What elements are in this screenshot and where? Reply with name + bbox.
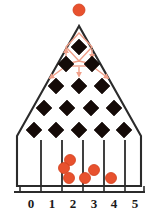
peg-r3-c1 <box>48 78 64 94</box>
x-axis-label-1: 1 <box>49 196 56 211</box>
peg-r4-c3 <box>83 100 99 116</box>
collected-ball-bin4-1 <box>106 173 117 184</box>
peg-r4-c1 <box>36 100 52 116</box>
input-ball <box>73 4 85 16</box>
peg-r5-c3 <box>71 122 87 138</box>
peg-r5-c2 <box>48 122 64 138</box>
peg-r1-c1 <box>71 39 87 55</box>
galton-board-figure: 012345 <box>0 0 159 219</box>
peg-r5-c1 <box>26 122 42 138</box>
galton-board-canvas: 012345 <box>0 0 159 219</box>
x-axis-label-5: 5 <box>132 196 139 211</box>
peg-r4-c2 <box>59 100 75 116</box>
x-axis-label-3: 3 <box>91 196 98 211</box>
collected-ball-bin2-3 <box>64 173 75 184</box>
peg-r3-c2 <box>71 78 87 94</box>
peg-r5-c5 <box>116 122 132 138</box>
collected-ball-bin2-2 <box>59 163 70 174</box>
x-axis-label-2: 2 <box>70 196 77 211</box>
collected-ball-bin3-1 <box>89 165 100 176</box>
peg-r5-c4 <box>94 122 110 138</box>
x-axis-label-0: 0 <box>28 196 35 211</box>
collected-ball-bin3-2 <box>80 173 91 184</box>
peg-r4-c4 <box>106 100 122 116</box>
peg-r3-c3 <box>94 78 110 94</box>
x-axis-label-4: 4 <box>111 196 118 211</box>
